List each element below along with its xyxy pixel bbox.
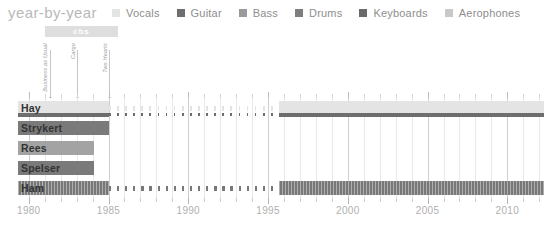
timeline-segment bbox=[279, 113, 544, 117]
axis-tick bbox=[204, 198, 205, 202]
axis-tick-label: 1995 bbox=[256, 205, 279, 216]
axis-tick bbox=[412, 198, 413, 202]
legend-item-keyboards[interactable]: Keyboards bbox=[359, 7, 427, 19]
legend-item-bass[interactable]: Bass bbox=[239, 7, 278, 19]
axis-tick-label: 1990 bbox=[177, 205, 200, 216]
legend-swatch-icon bbox=[359, 9, 367, 17]
axis-tick bbox=[380, 198, 381, 202]
axis-tick bbox=[29, 198, 30, 204]
legend-swatch-icon bbox=[295, 9, 303, 17]
x-axis: 1980198519901995200020052010 bbox=[16, 198, 544, 229]
legend-item-label: Guitar bbox=[191, 7, 222, 19]
chart-header: year-by-year VocalsGuitarBassDrumsKeyboa… bbox=[0, 0, 560, 26]
axis-tick bbox=[45, 198, 46, 202]
annotation-layer: cbsBusiness as UsualCargoTwo Hearts bbox=[16, 26, 544, 98]
axis-tick bbox=[316, 198, 317, 202]
axis-tick bbox=[348, 198, 349, 204]
timeline-segment bbox=[109, 113, 280, 116]
axis-tick bbox=[459, 198, 460, 202]
axis-tick bbox=[428, 198, 429, 204]
axis-tick-label: 2010 bbox=[496, 205, 519, 216]
axis-tick bbox=[300, 198, 301, 202]
axis-tick-label: 2000 bbox=[336, 205, 359, 216]
legend-item-label: Bass bbox=[253, 7, 278, 19]
legend: VocalsGuitarBassDrumsKeyboardsAerophones bbox=[112, 6, 537, 20]
legend-swatch-icon bbox=[177, 9, 185, 17]
legend-item-label: Drums bbox=[309, 7, 342, 19]
label-bar-text: cbs bbox=[45, 26, 118, 37]
timeline-segment bbox=[279, 181, 544, 195]
axis-tick bbox=[109, 198, 110, 204]
legend-swatch-icon bbox=[112, 9, 120, 17]
axis-tick bbox=[188, 198, 189, 204]
timeline-segment bbox=[109, 106, 280, 111]
legend-item-guitar[interactable]: Guitar bbox=[177, 7, 222, 19]
timeline-row[interactable]: Strykert bbox=[16, 118, 544, 138]
axis-tick bbox=[475, 198, 476, 202]
row-label-strykert: Strykert bbox=[21, 122, 62, 134]
album-label: Two Hearts bbox=[102, 43, 108, 73]
axis-tick bbox=[444, 198, 445, 202]
axis-tick bbox=[507, 198, 508, 204]
axis-tick bbox=[156, 198, 157, 202]
axis-tick bbox=[491, 198, 492, 202]
row-label-spelser: Spelser bbox=[21, 162, 60, 174]
timeline-row[interactable]: Spelser bbox=[16, 158, 544, 178]
legend-item-vocals[interactable]: Vocals bbox=[112, 7, 160, 19]
legend-item-label: Vocals bbox=[126, 7, 160, 19]
axis-tick bbox=[220, 198, 221, 202]
axis-tick bbox=[523, 198, 524, 202]
legend-item-drums[interactable]: Drums bbox=[295, 7, 342, 19]
row-label-hay: Hay bbox=[21, 102, 41, 114]
album-label: Business as Usual bbox=[42, 43, 48, 92]
axis-tick bbox=[364, 198, 365, 202]
timeline-row[interactable]: Rees bbox=[16, 138, 544, 158]
timeline-plot: HayStrykertReesSpelserHam bbox=[16, 98, 544, 198]
axis-tick bbox=[252, 198, 253, 202]
axis-tick bbox=[61, 198, 62, 202]
album-label: Cargo bbox=[70, 43, 76, 59]
axis-tick bbox=[539, 198, 540, 202]
album-marker-line bbox=[109, 50, 110, 98]
legend-item-label: Keyboards bbox=[373, 7, 427, 19]
legend-swatch-icon bbox=[445, 9, 453, 17]
timeline-row[interactable]: Ham bbox=[16, 178, 544, 198]
legend-item-label: Aerophones bbox=[459, 7, 520, 19]
legend-swatch-icon bbox=[239, 9, 247, 17]
row-label-rees: Rees bbox=[21, 142, 47, 154]
axis-tick bbox=[93, 198, 94, 202]
album-marker-line bbox=[50, 50, 51, 98]
axis-tick bbox=[140, 198, 141, 202]
label-bar-cbs: cbs bbox=[45, 26, 118, 37]
timeline-segment bbox=[109, 186, 280, 191]
axis-tick bbox=[268, 198, 269, 204]
axis-tick bbox=[236, 198, 237, 202]
axis-tick bbox=[332, 198, 333, 202]
axis-tick bbox=[77, 198, 78, 202]
axis-tick bbox=[172, 198, 173, 202]
axis-tick-label: 1985 bbox=[97, 205, 120, 216]
album-marker-line bbox=[77, 50, 78, 98]
page-title: year-by-year bbox=[8, 4, 97, 21]
axis-tick-label: 2005 bbox=[416, 205, 439, 216]
row-label-ham: Ham bbox=[21, 182, 44, 194]
timeline-row[interactable]: Hay bbox=[16, 98, 544, 118]
axis-tick bbox=[124, 198, 125, 202]
legend-item-aerophones[interactable]: Aerophones bbox=[445, 7, 520, 19]
axis-tick-label: 1980 bbox=[17, 205, 40, 216]
axis-tick bbox=[284, 198, 285, 202]
axis-tick bbox=[396, 198, 397, 202]
